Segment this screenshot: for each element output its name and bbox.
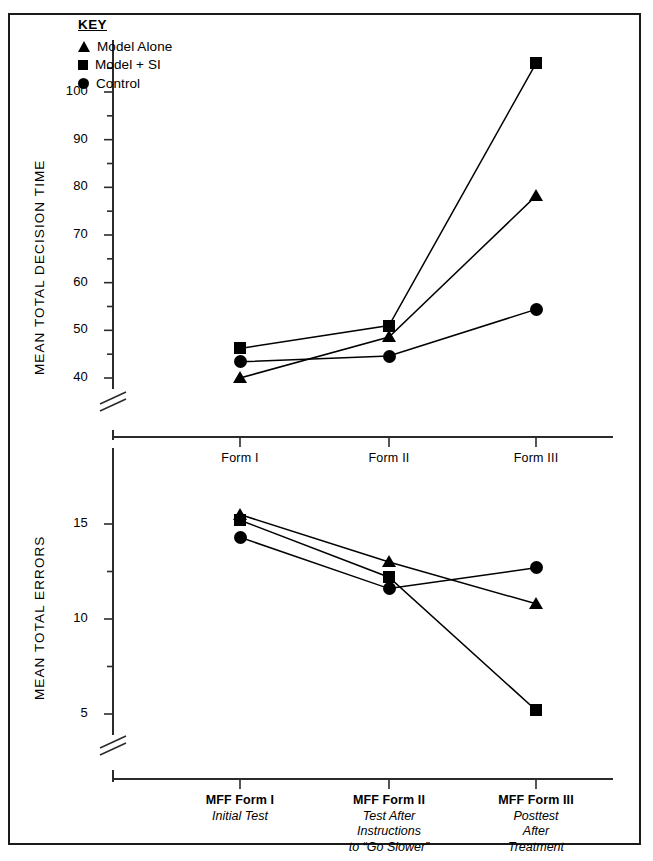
bottom-panel-yticks <box>104 524 113 714</box>
xtick-group-sub: Instructions <box>319 824 459 840</box>
top-panel-xticks <box>240 437 536 447</box>
circle-marker <box>530 303 543 316</box>
triangle-marker <box>529 189 543 201</box>
bottom-panel-axis-title: MEAN TOTAL ERRORS <box>32 536 47 700</box>
square-marker <box>530 57 542 69</box>
top-panel-axes <box>100 40 613 440</box>
xtick-group: MFF Form IITest AfterInstructionsto “Go … <box>319 793 459 855</box>
xtick-group-sub: to “Go Slower” <box>319 840 459 856</box>
xtick-label: Form I <box>180 451 300 465</box>
legend-item-control: Control <box>78 75 172 94</box>
legend-title: KEY <box>78 16 172 35</box>
triangle-marker <box>233 371 247 383</box>
ytick-label: 10 <box>40 610 88 625</box>
triangle-marker <box>382 555 396 567</box>
xtick-group: MFF Form IInitial Test <box>170 793 310 824</box>
triangle-marker <box>382 330 396 342</box>
legend-item-model-alone: Model Alone <box>78 38 172 57</box>
top-panel-yticks <box>104 68 113 378</box>
xtick-group-head: MFF Form III <box>466 793 606 809</box>
legend-label: Control <box>96 75 140 94</box>
square-marker <box>234 342 246 354</box>
ytick-label: 50 <box>40 321 88 336</box>
top-panel-axis-title: MEAN TOTAL DECISION TIME <box>32 160 47 375</box>
legend-label: Model + SI <box>95 56 161 75</box>
circle-marker <box>234 531 247 544</box>
bottom-panel-series-lines <box>240 515 536 711</box>
ytick-label: 80 <box>40 178 88 193</box>
triangle-marker <box>529 597 543 609</box>
bottom-panel-xticks <box>240 779 536 789</box>
xtick-group-sub: Test After <box>319 809 459 825</box>
ytick-label: 15 <box>40 515 88 530</box>
ytick-label: 40 <box>40 369 88 384</box>
square-marker <box>234 514 246 526</box>
ytick-label: 90 <box>40 131 88 146</box>
circle-marker <box>383 350 396 363</box>
xtick-group-sub: Initial Test <box>170 809 310 825</box>
square-icon <box>78 60 88 70</box>
ytick-label: 60 <box>40 274 88 289</box>
xtick-group-sub: After <box>466 824 606 840</box>
legend-key: KEY Model Alone Model + SI Control <box>78 16 172 93</box>
legend-label: Model Alone <box>97 38 172 57</box>
bottom-panel-axes <box>100 448 613 782</box>
xtick-label: Form III <box>476 451 596 465</box>
ytick-label: 70 <box>40 226 88 241</box>
circle-marker <box>383 582 396 595</box>
figure-root: 405060708090100 51015 Form IForm IIForm … <box>0 0 653 861</box>
xtick-group-head: MFF Form I <box>170 793 310 809</box>
xtick-group-sub: Posttest <box>466 809 606 825</box>
triangle-icon <box>78 41 90 52</box>
xtick-group-head: MFF Form II <box>319 793 459 809</box>
chart-canvas <box>0 0 653 861</box>
circle-marker <box>530 561 543 574</box>
circle-marker <box>234 355 247 368</box>
circle-icon <box>78 78 89 89</box>
xtick-label: Form II <box>329 451 449 465</box>
xtick-group-sub: Treatment <box>466 840 606 856</box>
xtick-group: MFF Form IIIPosttestAfterTreatment <box>466 793 606 855</box>
legend-item-model-si: Model + SI <box>78 56 172 75</box>
square-marker <box>530 704 542 716</box>
square-marker <box>383 320 395 332</box>
ytick-label: 5 <box>40 705 88 720</box>
